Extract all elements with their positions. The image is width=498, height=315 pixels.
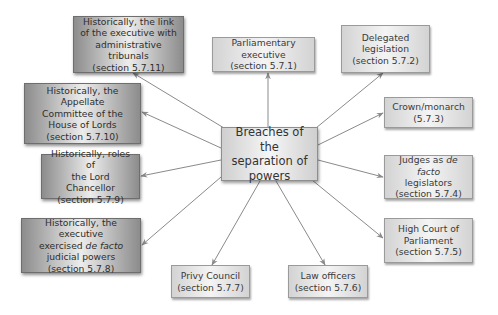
node-title: Crown/monarch [392,101,465,112]
node-crown-monarch: Crown/monarch (5.7.3) [384,97,473,128]
arrow-to-lord-chancellor [141,160,221,176]
separation-of-powers-diagram: Breaches of the separation of powers Par… [0,0,498,315]
node-section: (section 5.7.4) [389,188,468,199]
node-appellate-committee: Historically, the Appellate Committee of… [24,83,141,144]
node-title: Committee of the [29,108,136,119]
node-title-text: exercised [39,240,86,251]
node-title: Parliamentary executive [217,37,310,60]
node-section: (section 5.7.9) [46,194,135,205]
node-title: the Lord Chancellor [46,171,135,194]
center-line: Breaches of the [226,125,313,154]
node-administrative-tribunals: Historically, the link of the executive … [73,16,184,73]
node-section: (section 5.7.5) [395,246,462,257]
node-section: (5.7.3) [392,113,465,124]
node-title: High Court of [395,223,462,234]
node-law-officers: Law officers (section 5.7.6) [288,265,368,298]
node-section: (section 5.7.6) [295,282,362,293]
node-section: (section 5.7.10) [29,131,136,142]
node-section: (section 5.7.7) [177,282,244,293]
arrow-to-law-officers [276,181,325,265]
node-section: (section 5.7.8) [26,263,136,274]
arrow-to-admin-tribunals [133,73,224,128]
node-section: (section 5.7.1) [217,60,310,71]
node-title: Law officers [295,270,362,281]
arrow-to-appellate-committee [142,112,221,148]
node-title: Privy Council [177,270,244,281]
node-title: Judges as de facto [389,154,468,177]
node-title: administrative tribunals [78,39,179,62]
node-title: Historically, the executive [26,217,136,240]
node-title: Delegated [352,32,419,43]
node-high-court-of-parliament: High Court of Parliament (section 5.7.5) [384,218,473,263]
node-judges-de-facto-legislators: Judges as de facto legislators (section … [384,155,473,199]
node-title-emphasis: de facto [86,240,124,251]
node-title: judicial powers [26,251,136,262]
node-section: (section 5.7.2) [352,55,419,66]
node-title: Historically, roles of [46,148,135,171]
node-executive-de-facto-judicial-powers: Historically, the executive exercised de… [21,218,141,273]
node-title: of the executive with [78,27,179,38]
center-line: powers [226,169,313,184]
node-title: Historically, the Appellate [29,85,136,108]
arrow-to-delegated-legislation [316,73,383,128]
node-title-text: Judges as [399,154,446,165]
arrow-to-high-court [312,180,383,238]
node-title: House of Lords [29,119,136,130]
node-title: Parliament [395,235,462,246]
node-parliamentary-executive: Parliamentary executive (section 5.7.1) [212,37,315,72]
center-line: separation of [226,154,313,169]
arrow-to-judges [318,160,383,177]
node-title: legislation [352,43,419,54]
node-privy-council: Privy Council (section 5.7.7) [171,265,250,298]
arrow-to-privy-council [212,181,260,265]
node-section: (section 5.7.11) [78,62,179,73]
node-title: legislators [389,177,468,188]
node-delegated-legislation: Delegated legislation (section 5.7.2) [341,25,430,73]
node-title: exercised de facto [26,240,136,251]
node-title: Historically, the link [78,16,179,27]
node-lord-chancellor-roles: Historically, roles of the Lord Chancell… [41,154,140,199]
central-node-breaches: Breaches of the separation of powers [221,127,318,181]
arrow-to-executive-judicial [142,177,221,245]
